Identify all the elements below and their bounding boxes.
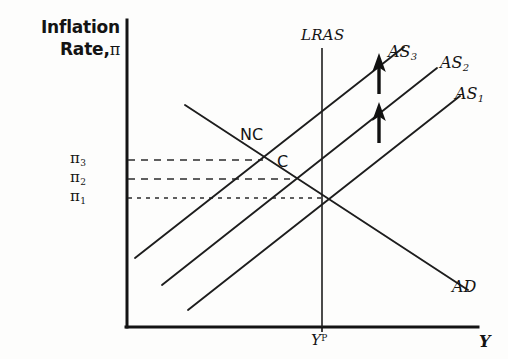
pi2-subscript: 2 bbox=[80, 177, 86, 187]
y-axis-title-pi-symbol: π bbox=[110, 40, 120, 59]
as2-subscript: 2 bbox=[463, 62, 470, 73]
yp-superscript: P bbox=[321, 333, 327, 343]
pi1-symbol: π bbox=[70, 187, 80, 205]
y-axis-title-line2: Rate, bbox=[60, 39, 110, 59]
pi3-tick-label: π3 bbox=[70, 151, 508, 168]
potential-output-label: YP bbox=[311, 333, 327, 348]
nc-point-label: NC bbox=[240, 127, 263, 143]
pi1-tick-label: π1 bbox=[70, 189, 508, 206]
as3-subscript: 3 bbox=[411, 51, 418, 62]
pi2-symbol: π bbox=[70, 168, 80, 186]
pi3-symbol: π bbox=[70, 149, 80, 167]
as3-base: AS bbox=[388, 42, 411, 61]
c-point-label: C bbox=[277, 154, 288, 170]
ad-as-diagram: Inflation Rate,π π3 π2 π1 LRAS AS3 AS2 A… bbox=[0, 0, 508, 359]
yp-symbol: Y bbox=[311, 331, 321, 349]
pi3-subscript: 3 bbox=[80, 158, 86, 168]
y-axis-title-line1: Inflation bbox=[41, 17, 120, 37]
y-axis-title: Inflation Rate,π bbox=[6, 16, 120, 61]
shift-arrow-upper-icon bbox=[372, 53, 386, 94]
as2-base: AS bbox=[440, 53, 463, 72]
as2-curve-label: AS2 bbox=[440, 55, 469, 73]
x-axis-label: Y bbox=[479, 334, 490, 350]
ad-curve-label: AD bbox=[452, 279, 476, 295]
as1-base: AS bbox=[455, 84, 478, 103]
pi1-subscript: 1 bbox=[80, 196, 86, 206]
as1-curve-label: AS1 bbox=[455, 86, 484, 104]
shift-arrow-lower-icon bbox=[372, 102, 386, 143]
as3-curve-label: AS3 bbox=[388, 44, 417, 62]
as1-subscript: 1 bbox=[478, 93, 485, 104]
pi2-tick-label: π2 bbox=[70, 170, 508, 187]
lras-curve-label: LRAS bbox=[301, 28, 345, 43]
